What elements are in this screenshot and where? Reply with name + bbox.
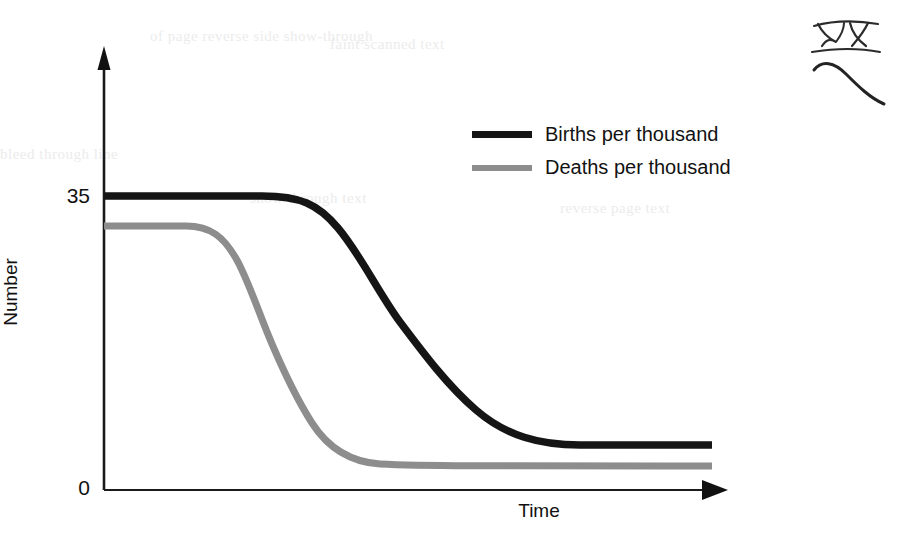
y-tick-label-0: 0: [50, 476, 90, 500]
legend-label-deaths: Deaths per thousand: [545, 156, 731, 179]
x-axis-title: Time: [494, 500, 584, 522]
legend-item-deaths: Deaths per thousand: [472, 151, 772, 184]
legend-item-births: Births per thousand: [472, 118, 772, 151]
chart-canvas: [0, 0, 907, 540]
legend-swatch-deaths: [472, 165, 532, 171]
series-line-deaths: [104, 226, 712, 466]
up-arrow-icon: [98, 46, 111, 70]
scanned-figure-page: of page reverse side show-through faint …: [0, 0, 907, 540]
chart-legend: Births per thousand Deaths per thousand: [472, 118, 772, 184]
right-arrow-icon: [702, 480, 728, 500]
y-tick-label-35: 35: [50, 184, 90, 208]
handwritten-ink-marks-icon: [792, 8, 902, 116]
series-line-births: [104, 196, 712, 445]
y-axis: [98, 46, 111, 490]
y-axis-title: Number: [0, 254, 22, 330]
legend-swatch-births: [472, 131, 532, 138]
x-axis: [104, 480, 728, 500]
legend-label-births: Births per thousand: [545, 123, 718, 146]
